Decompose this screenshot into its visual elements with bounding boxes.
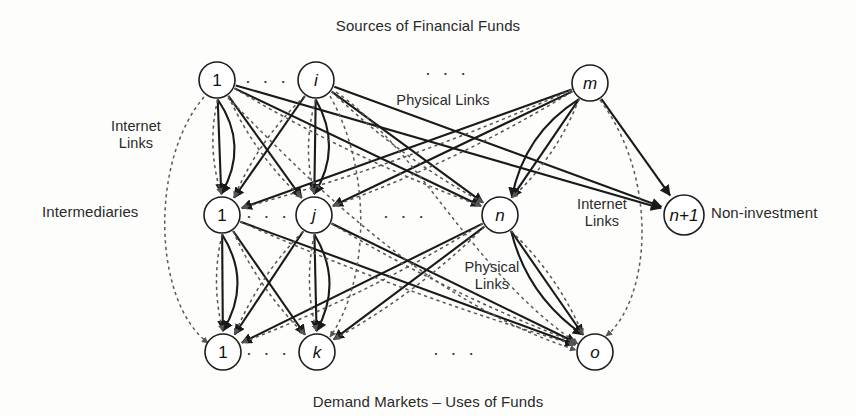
node-label-mn1: n+1 bbox=[670, 206, 699, 225]
node-mn: n bbox=[482, 197, 518, 233]
node-label-d1: 1 bbox=[218, 343, 227, 362]
ellipsis-demand_markets-1: · · · bbox=[433, 342, 478, 363]
ellipsis-sources-0: · · · bbox=[245, 70, 290, 91]
ellipsis-demand_markets-0: · · · bbox=[246, 342, 291, 363]
ellipsis-sources-1: · · · bbox=[425, 62, 470, 83]
node-mj: j bbox=[296, 197, 332, 233]
node-label-m1: 1 bbox=[217, 206, 226, 225]
network-diagram: Sources of Financial Funds Demand Market… bbox=[0, 0, 856, 416]
node-do: o bbox=[577, 334, 613, 370]
node-label-sm: m bbox=[583, 74, 597, 93]
node-label-mn: n bbox=[495, 206, 504, 225]
node-m1: 1 bbox=[204, 197, 240, 233]
node-dk: k bbox=[299, 334, 335, 370]
network-graph-canvas: 1im1jnn+11ko · · ·· · ·· · ·· · ·· · ·· … bbox=[0, 0, 856, 416]
node-sm: m bbox=[572, 65, 608, 101]
ellipsis-intermediaries-0: · · · bbox=[246, 205, 291, 226]
node-label-s1: 1 bbox=[212, 71, 221, 90]
node-s1: 1 bbox=[199, 62, 235, 98]
node-label-do: o bbox=[590, 343, 599, 362]
node-d1: 1 bbox=[205, 334, 241, 370]
node-si: i bbox=[298, 62, 334, 98]
ellipsis-intermediaries-1: · · · bbox=[383, 205, 428, 226]
node-mn1: n+1 bbox=[664, 195, 704, 235]
